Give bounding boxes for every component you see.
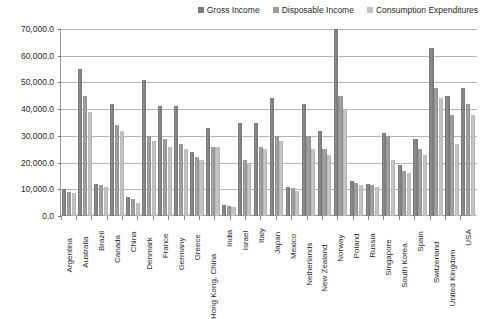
bar-group (317, 29, 333, 216)
bar-group (189, 29, 205, 216)
x-axis-tick-label-text: New Zealand (320, 245, 329, 292)
legend-item[interactable]: Disposable Income (273, 5, 354, 15)
bar-group (237, 29, 253, 216)
bar[interactable] (254, 123, 258, 217)
bar[interactable] (120, 131, 124, 216)
bar[interactable] (174, 106, 178, 216)
bar[interactable] (461, 88, 465, 216)
bar-group (125, 29, 141, 216)
bar[interactable] (318, 131, 322, 216)
bar[interactable] (434, 88, 438, 216)
x-axis-tick-label-text: Germany (176, 237, 185, 270)
x-axis-label-cell: Australia (77, 221, 93, 309)
bar[interactable] (62, 189, 66, 216)
x-axis-tick-label: USA (468, 213, 477, 229)
x-axis-label-cell: Singapore (380, 221, 396, 309)
bar[interactable] (158, 106, 162, 216)
legend-label: Gross Income (207, 5, 260, 15)
x-axis-label-cell: Netherlands (301, 221, 317, 309)
bar[interactable] (286, 187, 290, 216)
x-axis-label-cell: New Zealand (317, 221, 333, 309)
x-axis-label-cell: Israel (237, 221, 253, 309)
y-axis-tick-label: 0.0 (42, 211, 54, 221)
x-axis-label-cell: South Korea (396, 221, 412, 309)
bar-group (428, 29, 444, 216)
bar[interactable] (429, 48, 433, 216)
bar[interactable] (263, 149, 267, 216)
x-axis-tick-label-text: Spain (416, 231, 425, 251)
bar[interactable] (83, 96, 87, 216)
x-axis-label-cell: USA (460, 221, 476, 309)
y-axis-tick-label: 30,000.0 (21, 131, 54, 141)
x-axis-tick-label-text: Argentina (64, 238, 73, 272)
legend-item[interactable]: Consumption Expenditures (367, 5, 478, 15)
bar[interactable] (279, 141, 283, 216)
bar[interactable] (190, 152, 194, 216)
bar[interactable] (302, 104, 306, 216)
bar[interactable] (270, 98, 274, 216)
x-axis-label-cell: Argentina (61, 221, 77, 309)
bar[interactable] (142, 80, 146, 216)
x-axis-tick-label-text: United Kingdom (448, 249, 457, 306)
bar[interactable] (366, 184, 370, 216)
bar[interactable] (334, 29, 338, 216)
bar[interactable] (163, 139, 167, 216)
x-axis-label-cell: Germany (173, 221, 189, 309)
bar[interactable] (110, 104, 114, 216)
x-axis-tick-label-text: France (160, 233, 169, 258)
bar[interactable] (418, 149, 422, 216)
bar[interactable] (168, 147, 172, 216)
bar[interactable] (423, 155, 427, 216)
bar[interactable] (88, 112, 92, 216)
legend-swatch-icon (198, 7, 204, 13)
bar-group (109, 29, 125, 216)
x-axis-label-cell: France (157, 221, 173, 309)
bar[interactable] (471, 115, 475, 217)
y-axis-tick-label: 10,000.0 (21, 184, 54, 194)
y-axis-tick-label: 60,000.0 (21, 51, 54, 61)
bar-group (141, 29, 157, 216)
bar[interactable] (413, 139, 417, 216)
bar[interactable] (78, 69, 82, 216)
bar[interactable] (350, 181, 354, 216)
chart-legend: Gross IncomeDisposable IncomeConsumption… (0, 2, 485, 18)
bar[interactable] (238, 123, 242, 217)
bar-group (301, 29, 317, 216)
bar-group (444, 29, 460, 216)
x-axis-tick-label-text: Greece (192, 234, 201, 260)
x-axis-tick-label-text: South Korea (400, 243, 409, 287)
bar[interactable] (398, 165, 402, 216)
bar[interactable] (259, 147, 263, 216)
legend-swatch-icon (367, 7, 373, 13)
x-axis-tick-label-text: Denmark (144, 237, 153, 269)
bar[interactable] (275, 136, 279, 216)
bar-group (157, 29, 173, 216)
bar[interactable] (382, 133, 386, 216)
x-axis-tick-label-text: Japan (272, 232, 281, 254)
legend-item[interactable]: Gross Income (198, 5, 260, 15)
bar[interactable] (126, 197, 130, 216)
bar-group (364, 29, 380, 216)
bar[interactable] (445, 96, 449, 216)
x-axis-label-cell: Canada (109, 221, 125, 309)
bar[interactable] (247, 163, 251, 216)
legend-label: Disposable Income (282, 5, 354, 15)
bar[interactable] (439, 98, 443, 216)
x-axis-label-cell: Hong Kong, China (205, 221, 221, 309)
bar[interactable] (115, 125, 119, 216)
bar-groups (61, 29, 476, 216)
x-axis-tick-label-text: Hong Kong, China (208, 254, 217, 319)
bar[interactable] (343, 109, 347, 216)
bar[interactable] (466, 104, 470, 216)
x-axis-label-cell: Spain (412, 221, 428, 309)
x-axis-tick-label-text: India (224, 230, 233, 247)
bar[interactable] (243, 160, 247, 216)
bar[interactable] (94, 184, 98, 216)
x-axis-label-cell: Mexico (285, 221, 301, 309)
bar-group (221, 29, 237, 216)
x-axis-label-cell: Brazil (93, 221, 109, 309)
bar[interactable] (222, 205, 226, 216)
x-axis-label-cell: United Kingdom (444, 221, 460, 309)
bar[interactable] (206, 128, 210, 216)
bar[interactable] (338, 96, 342, 216)
